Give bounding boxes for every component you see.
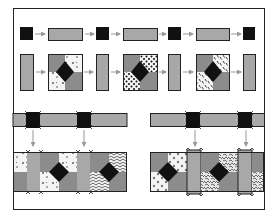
- quilt-assembly-diagram: [0, 0, 274, 216]
- quilt-block-a: [48, 54, 83, 91]
- cornerstone: [186, 112, 200, 128]
- sashing-row-left: [13, 111, 127, 129]
- vertical-sashing-strip: [169, 55, 181, 91]
- quilt-block-dashes: [196, 54, 230, 91]
- cornerstone: [238, 112, 252, 128]
- cornerstone: [96, 27, 109, 40]
- block-sashing-row: [21, 54, 256, 91]
- vertical-sashing-strip: [244, 55, 256, 91]
- cornerstone: [243, 27, 255, 40]
- sashing-strip: [49, 29, 83, 41]
- vertical-sashing-strip: [21, 55, 34, 91]
- cornerstone: [20, 27, 33, 40]
- quilt-block-dots: [123, 54, 158, 91]
- sashing-row-right: [151, 111, 265, 129]
- block-row-right: [150, 148, 264, 196]
- sashing-strip: [197, 29, 230, 41]
- cornerstone: [77, 112, 91, 128]
- cornerstone: [168, 27, 181, 40]
- sashing-strip: [124, 29, 158, 41]
- vertical-sashing-strip: [97, 55, 109, 91]
- cornerstone-sashing-row: [20, 27, 255, 41]
- block-row-left: [13, 150, 127, 194]
- cornerstone: [26, 112, 40, 128]
